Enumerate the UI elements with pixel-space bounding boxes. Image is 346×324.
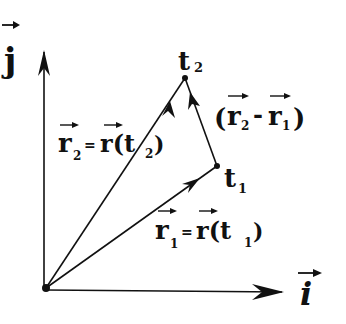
- svg-text:2: 2: [73, 149, 81, 163]
- svg-text:1: 1: [238, 181, 247, 196]
- svg-text:=: =: [84, 137, 96, 153]
- svg-text:2: 2: [241, 119, 249, 133]
- vector-arrow-icon: [313, 269, 322, 277]
- x-axis-label: i: [298, 269, 322, 313]
- svg-text:(: (: [214, 103, 226, 133]
- y-axis: [38, 50, 50, 288]
- vector-arrow-icon: [72, 122, 79, 128]
- arrowhead-icon: [188, 92, 200, 110]
- svg-text:r: r: [227, 101, 241, 131]
- svg-text:1: 1: [282, 119, 290, 133]
- svg-text:1: 1: [170, 237, 178, 251]
- displacement-vector-diagram: j i t 2 t 1 ( r 2 -: [0, 0, 346, 324]
- svg-text:t: t: [178, 46, 190, 76]
- origin-point: [42, 284, 50, 292]
- svg-text:t: t: [224, 163, 236, 193]
- svg-text:r: r: [58, 128, 72, 158]
- vector-r2-minus-r1: [185, 78, 217, 166]
- vector-arrow-icon: [242, 93, 249, 99]
- svg-text:j: j: [1, 40, 16, 80]
- vector-arrow-icon: [116, 122, 123, 128]
- label-r2-equation: r 2 = r(t 2 ): [58, 122, 164, 163]
- vector-arrow-icon: [284, 93, 291, 99]
- vector-r2: [46, 78, 185, 288]
- vector-arrow-icon: [13, 21, 20, 29]
- x-axis: [46, 284, 284, 300]
- arrowhead-icon: [182, 178, 200, 193]
- label-r2-minus-r1: ( r 2 - r 1 ): [214, 93, 305, 133]
- svg-text:r: r: [268, 101, 282, 131]
- vector-arrow-icon: [170, 208, 177, 214]
- point-t1: [214, 163, 220, 169]
- y-axis-label: j: [1, 21, 20, 80]
- svg-text:1: 1: [244, 236, 252, 250]
- svg-text:r: r: [155, 215, 169, 245]
- label-t2: t 2: [178, 46, 203, 76]
- vector-arrow-icon: [211, 208, 218, 214]
- svg-text:2: 2: [194, 60, 203, 75]
- svg-text:2: 2: [145, 147, 153, 161]
- label-t1: t 1: [224, 163, 247, 196]
- svg-text:-: -: [253, 100, 263, 129]
- svg-text:): ): [154, 131, 164, 157]
- label-r1-equation: r 1 = r(t 1 ): [155, 208, 263, 251]
- svg-text:): ): [293, 103, 305, 133]
- svg-text:r(t: r(t: [100, 129, 135, 158]
- svg-text:=: =: [181, 224, 193, 240]
- svg-text:): ): [253, 218, 263, 244]
- svg-text:r(t: r(t: [196, 216, 231, 245]
- svg-text:i: i: [300, 275, 312, 313]
